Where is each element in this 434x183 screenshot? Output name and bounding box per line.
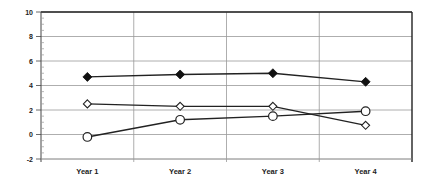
y-tick-label: 0 — [29, 131, 33, 138]
y-tick-label: 4 — [29, 82, 33, 89]
filled-diamond-marker — [176, 70, 185, 79]
line-chart: -20246810 Year 1Year 2Year 3Year 4 — [0, 0, 434, 183]
x-category-label: Year 3 — [262, 167, 284, 176]
hollow-diamond-marker — [176, 102, 184, 110]
y-tick-label: 6 — [29, 58, 33, 65]
hollow-circle-marker — [83, 133, 92, 142]
y-tick-label: 8 — [29, 33, 33, 40]
x-category-label: Year 2 — [169, 167, 191, 176]
hollow-diamond-marker — [362, 121, 370, 129]
x-axis-labels: Year 1Year 2Year 3Year 4 — [76, 167, 377, 176]
hollow-circle-marker — [361, 107, 370, 116]
hollow-diamond-marker — [269, 102, 277, 110]
hollow-diamond-marker — [83, 100, 91, 108]
y-tick-label: 10 — [25, 9, 33, 16]
hollow-circle-marker — [176, 116, 185, 125]
gridlines — [41, 12, 412, 162]
y-tick-label: 2 — [29, 107, 33, 114]
x-category-label: Year 1 — [76, 167, 98, 176]
filled-diamond-marker — [83, 72, 92, 81]
filled-diamond-marker — [361, 77, 370, 86]
x-category-label: Year 4 — [355, 167, 378, 176]
filled-diamond-marker — [268, 69, 277, 78]
hollow-circle-marker — [269, 112, 278, 121]
y-tick-label: -2 — [27, 156, 33, 163]
